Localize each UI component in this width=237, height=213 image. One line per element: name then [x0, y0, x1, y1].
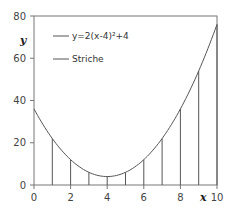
y-axis-label: y	[19, 34, 28, 47]
vertical-strokes-series	[52, 24, 217, 185]
x-tick-label: 4	[104, 192, 110, 203]
parabola-curve	[34, 24, 217, 176]
x-tick-label: 8	[177, 192, 183, 203]
x-tick-label: 2	[67, 192, 73, 203]
x-tick-label: 10	[211, 192, 224, 203]
y-tick-label: 20	[13, 137, 26, 148]
y-tick-label: 0	[20, 180, 26, 191]
chart: 0246810020406080 y x y=2(x-4)²+4 Striche	[0, 0, 237, 213]
plot-border	[34, 16, 217, 185]
legend-label-striche: Striche	[72, 54, 104, 64]
x-axis-label: x	[199, 191, 207, 204]
y-tick-label: 40	[13, 95, 26, 106]
legend-label-curve: y=2(x-4)²+4	[72, 31, 129, 41]
x-tick-label: 6	[141, 192, 147, 203]
x-tick-label: 0	[31, 192, 37, 203]
y-tick-label: 80	[13, 11, 26, 22]
legend: y=2(x-4)²+4 Striche	[53, 31, 129, 64]
plot-frame	[34, 16, 217, 185]
y-tick-label: 60	[13, 53, 26, 64]
